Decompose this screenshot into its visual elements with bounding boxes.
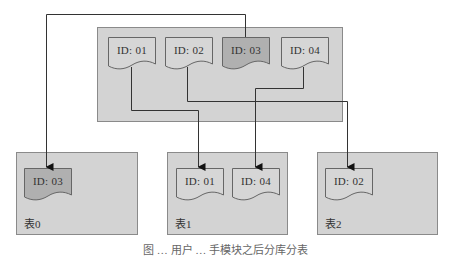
figure-caption: 图 … 用户 … 手模块之后分库分表 — [0, 241, 451, 257]
edge-02-table2 — [188, 67, 348, 167]
edge-01-table1 — [132, 67, 199, 167]
edge-04-table1 — [256, 67, 304, 167]
edge-03-table0 — [47, 15, 246, 168]
